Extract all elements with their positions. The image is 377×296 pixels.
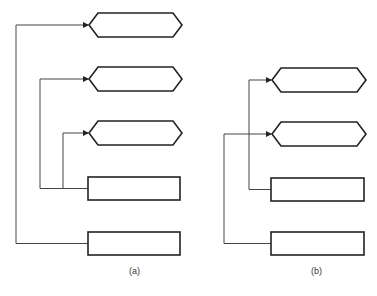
- panel-0-hexagon-2: [89, 121, 182, 145]
- panel-0-hexagon-0: [89, 13, 182, 37]
- panel-0-process-box-0: [88, 177, 180, 200]
- panel-1-hexagon-0: [272, 68, 366, 92]
- panel-0-connector-0: [16, 25, 88, 244]
- panel-0-process-box-1: [88, 232, 180, 255]
- panel-1-connector-0: [249, 80, 271, 190]
- panel-a-caption: (a): [129, 266, 140, 276]
- panel-0-hexagon-1: [89, 67, 182, 91]
- diagram-canvas: [0, 0, 377, 296]
- panel-1-hexagon-1: [272, 122, 366, 146]
- panel-1-process-box-1: [271, 232, 364, 255]
- panel-1-connector-1: [224, 134, 271, 244]
- panel-0-connector-2: [63, 133, 88, 189]
- panel-0-connector-1: [40, 79, 88, 189]
- panel-b-caption: (b): [311, 266, 322, 276]
- panel-1-process-box-0: [271, 178, 364, 201]
